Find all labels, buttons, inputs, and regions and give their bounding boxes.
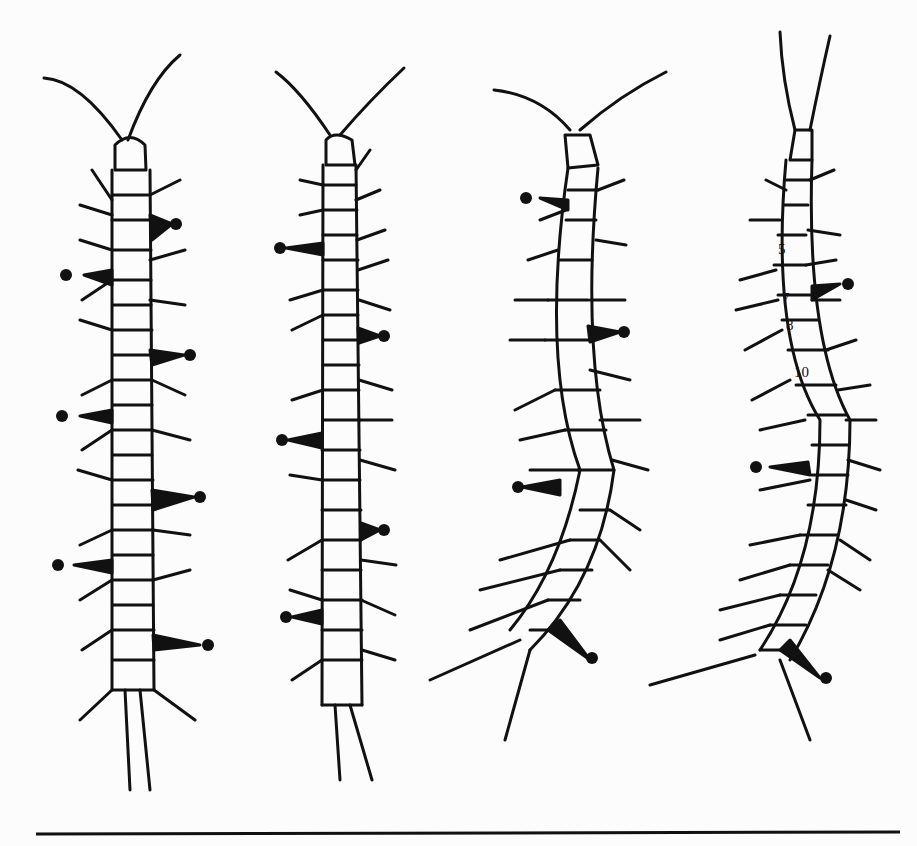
- centipede-1: [44, 55, 200, 790]
- centipede-2: [276, 68, 404, 780]
- leg-marker-dot: [202, 639, 214, 651]
- leg-marker-dot: [520, 192, 532, 204]
- segment-label-5: 5: [778, 241, 786, 257]
- segment-label-10: 10: [794, 364, 809, 380]
- leg-marker-dot: [56, 410, 68, 422]
- leg-marker-dot: [820, 672, 832, 684]
- leg-marker-dot: [274, 242, 286, 254]
- segment-label-7: 7: [782, 290, 790, 306]
- leg-marker-dot: [378, 330, 390, 342]
- leg-marker-dot: [586, 652, 598, 664]
- bottom-rule: [36, 832, 900, 834]
- centipede-4: [650, 32, 880, 740]
- leg-marker-dot: [618, 326, 630, 338]
- leg-marker-dot: [280, 611, 292, 623]
- leg-marker-dot: [512, 481, 524, 493]
- leg-marker-dot: [378, 524, 390, 536]
- leg-marker-dots: [52, 192, 854, 684]
- leg-marker-dot: [842, 278, 854, 290]
- leg-marker-dot: [170, 218, 182, 230]
- leg-marker-dot: [194, 491, 206, 503]
- leg-marker-dot: [60, 269, 72, 281]
- leg-marker-dot: [184, 349, 196, 361]
- leg-marker-dot: [52, 559, 64, 571]
- centipede-figure: 5 7 8 10: [0, 0, 917, 846]
- leg-marker-dot: [750, 461, 762, 473]
- centipede-3: [430, 72, 666, 740]
- leg-marker-dot: [276, 434, 288, 446]
- segment-label-8: 8: [786, 317, 794, 333]
